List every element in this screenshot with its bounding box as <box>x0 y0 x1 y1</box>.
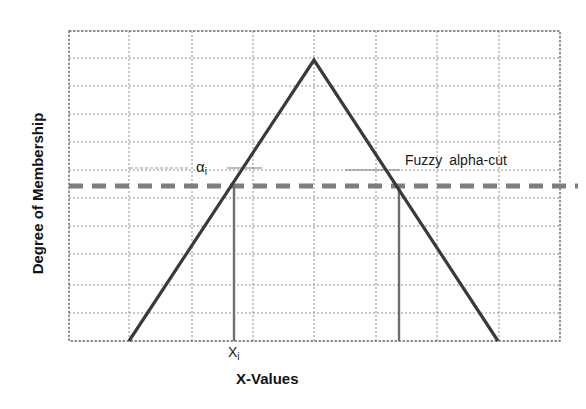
alpha-symbol: α <box>196 158 205 175</box>
x-i-label: Xi <box>228 344 240 362</box>
x-axis-title: X-Values <box>236 370 299 387</box>
xi-subscript: i <box>237 351 239 362</box>
alpha-subscript: i <box>205 166 207 177</box>
y-axis-title: Degree of Membership <box>29 79 46 309</box>
fuzzy-alpha-cut-figure: Degree of Membership X-Values αi Fuzzy a… <box>0 0 586 409</box>
plot-canvas <box>0 0 586 409</box>
fuzzy-alpha-cut-label: Fuzzy alpha-cut <box>405 152 507 168</box>
xi-symbol: X <box>228 344 237 360</box>
alpha-i-label: αi <box>196 158 207 177</box>
